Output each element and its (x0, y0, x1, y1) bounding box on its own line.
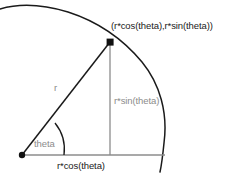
circle-point-marker (107, 39, 114, 46)
origin-point-marker (19, 152, 25, 158)
angle-arc (55, 123, 64, 155)
opposite-side-label: r*sin(theta) (114, 96, 159, 106)
angle-label: theta (34, 139, 55, 149)
radius-label: r (54, 83, 57, 93)
polar-coordinate-diagram: (r*cos(theta),r*sin(theta)) r*sin(theta)… (0, 0, 232, 180)
point-coordinates-label: (r*cos(theta),r*sin(theta)) (111, 21, 213, 31)
adjacent-side-label: r*cos(theta) (57, 161, 105, 171)
